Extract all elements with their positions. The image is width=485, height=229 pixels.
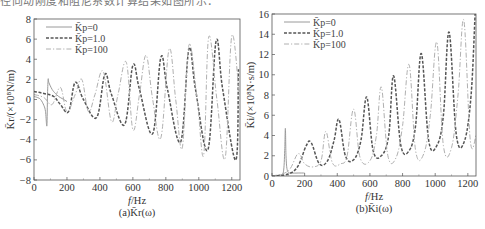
x-tick-label: 800 (395, 178, 411, 189)
y-tick-label: 8 (264, 90, 269, 101)
x-tick-label: 1200 (457, 178, 478, 189)
legend: K̄p=0K̄p=1.0K̄p=100 (46, 22, 108, 55)
y-tick-label: 2 (26, 74, 31, 85)
y-tick-label: 4 (264, 130, 270, 141)
panel-b-imaginary-stiffness: 0200400600800100012000246810121416f/HzK̄… (245, 9, 478, 216)
y-tick-label: 0 (26, 94, 31, 105)
y-tick-label: 4 (26, 54, 32, 65)
x-tick-label: 0 (269, 178, 274, 189)
x-tick-label: 1000 (188, 182, 209, 193)
legend-label: K̄p=100 (75, 44, 108, 55)
x-tick-label: 200 (297, 178, 313, 189)
y-tick-label: 6 (264, 110, 269, 121)
y-tick-label: 12 (259, 49, 270, 60)
panel-a-real-stiffness: 020040060080010001200−8−6−4−202468f/HzK̄… (5, 14, 242, 220)
series-line-2 (34, 35, 239, 160)
plot-frame (34, 19, 240, 180)
y-tick-label: 2 (264, 150, 269, 161)
y-tick-label: −2 (20, 114, 31, 125)
y-tick-label: −8 (20, 175, 31, 186)
legend-label: K̄p=100 (313, 39, 346, 50)
y-tick-label: 0 (264, 171, 269, 182)
series-line-0 (34, 79, 67, 126)
series-line-0 (272, 128, 305, 176)
legend-label: K̄p=1.0 (75, 33, 105, 44)
y-tick-label: 16 (259, 9, 270, 20)
panel-caption: (b)K̄i(ω) (356, 203, 393, 215)
y-tick-label: −4 (20, 134, 32, 145)
x-tick-label: 600 (125, 182, 141, 193)
plot-area (34, 35, 239, 160)
plot-area (272, 12, 476, 176)
x-tick-label: 200 (59, 182, 75, 193)
y-tick-label: 6 (26, 34, 31, 45)
y-tick-label: −6 (20, 154, 31, 165)
y-axis-title: K̄i/(×10⁸N·s/m) (245, 61, 257, 128)
series-line-2 (272, 19, 476, 176)
x-tick-label: 400 (329, 178, 345, 189)
x-tick-label: 800 (158, 182, 174, 193)
x-axis-title: f/Hz (128, 195, 146, 206)
x-tick-label: 1200 (221, 182, 242, 193)
x-tick-label: 400 (92, 182, 108, 193)
chart-canvas: 020040060080010001200−8−6−4−202468f/HzK̄… (0, 0, 485, 229)
x-tick-label: 0 (31, 182, 36, 193)
x-axis-title: f/Hz (365, 191, 383, 202)
y-tick-label: 10 (259, 69, 270, 80)
panel-caption: (a)K̄r(ω) (119, 207, 156, 219)
x-tick-label: 1000 (425, 178, 446, 189)
legend: K̄p=0K̄p=1.0K̄p=100 (284, 17, 346, 50)
legend-label: K̄p=1.0 (313, 28, 343, 39)
legend-label: K̄p=0 (75, 22, 98, 33)
x-tick-label: 600 (362, 178, 378, 189)
y-tick-label: 8 (26, 14, 31, 25)
legend-label: K̄p=0 (313, 17, 336, 28)
y-axis-title: K̄r/(×10⁸N/m) (5, 69, 17, 129)
y-tick-label: 14 (259, 29, 270, 40)
